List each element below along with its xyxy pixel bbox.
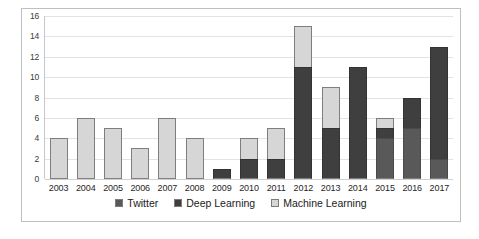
bar-group[interactable] bbox=[158, 118, 176, 179]
bar-segment[interactable] bbox=[376, 138, 394, 179]
bar-segment[interactable] bbox=[349, 67, 367, 179]
x-tick-label: 2005 bbox=[99, 181, 126, 195]
y-tick-label: 8 bbox=[34, 93, 39, 102]
y-tick-label: 14 bbox=[30, 32, 39, 41]
bar-group[interactable] bbox=[430, 47, 448, 179]
x-tick-label: 2010 bbox=[235, 181, 262, 195]
grid-line bbox=[45, 179, 453, 180]
legend-label: Deep Learning bbox=[186, 198, 255, 209]
y-tick-label: 12 bbox=[30, 53, 39, 62]
bar-segment[interactable] bbox=[294, 67, 312, 179]
bar-segment[interactable] bbox=[131, 148, 149, 179]
bar-segment[interactable] bbox=[50, 138, 68, 179]
bar-segment[interactable] bbox=[240, 159, 258, 179]
bar-group[interactable] bbox=[376, 118, 394, 179]
bar-segment[interactable] bbox=[322, 128, 340, 179]
bar-group[interactable] bbox=[77, 118, 95, 179]
plot-area bbox=[45, 16, 453, 179]
bar-group[interactable] bbox=[104, 128, 122, 179]
y-tick-label: 4 bbox=[34, 134, 39, 143]
bar-group[interactable] bbox=[267, 128, 285, 179]
bar-segment[interactable] bbox=[430, 159, 448, 179]
bar-segment[interactable] bbox=[294, 26, 312, 67]
legend-label: Twitter bbox=[127, 198, 158, 209]
bar-group[interactable] bbox=[186, 138, 204, 179]
legend-swatch-icon bbox=[271, 199, 279, 207]
legend-label: Machine Learning bbox=[283, 198, 366, 209]
bar-group[interactable] bbox=[213, 169, 231, 179]
x-tick-label: 2012 bbox=[290, 181, 317, 195]
y-tick-label: 6 bbox=[34, 114, 39, 123]
bar-group[interactable] bbox=[50, 138, 68, 179]
x-tick-label: 2011 bbox=[263, 181, 290, 195]
x-tick-label: 2008 bbox=[181, 181, 208, 195]
x-tick-label: 2007 bbox=[154, 181, 181, 195]
x-tick-label: 2006 bbox=[127, 181, 154, 195]
bar-segment[interactable] bbox=[376, 128, 394, 138]
y-tick-label: 2 bbox=[34, 154, 39, 163]
bar-segment[interactable] bbox=[186, 138, 204, 179]
bar-segment[interactable] bbox=[403, 128, 421, 179]
y-tick-label: 10 bbox=[30, 73, 39, 82]
x-tick-label: 2015 bbox=[371, 181, 398, 195]
bar-segment[interactable] bbox=[104, 128, 122, 179]
chart-container: 0246810121416 20032004200520062007200820… bbox=[0, 0, 479, 239]
x-tick-label: 2016 bbox=[399, 181, 426, 195]
y-tick-label: 0 bbox=[34, 175, 39, 184]
bar-segment[interactable] bbox=[322, 87, 340, 128]
bar-group[interactable] bbox=[349, 67, 367, 179]
x-axis-tick-labels: 2003200420052006200720082009201020112012… bbox=[45, 181, 453, 197]
bar-segment[interactable] bbox=[240, 138, 258, 158]
bar-segment[interactable] bbox=[403, 98, 421, 129]
bar-group[interactable] bbox=[240, 138, 258, 179]
bar-group[interactable] bbox=[322, 87, 340, 179]
x-tick-label: 2009 bbox=[208, 181, 235, 195]
bar-segment[interactable] bbox=[430, 47, 448, 159]
legend-swatch-icon bbox=[115, 199, 123, 207]
legend-swatch-icon bbox=[174, 199, 182, 207]
legend-item[interactable]: Machine Learning bbox=[271, 198, 366, 209]
chart-legend: TwitterDeep LearningMachine Learning bbox=[21, 198, 461, 209]
legend-item[interactable]: Deep Learning bbox=[174, 198, 255, 209]
bar-segment[interactable] bbox=[376, 118, 394, 128]
y-axis-tick-labels: 0246810121416 bbox=[21, 16, 42, 179]
bar-group[interactable] bbox=[131, 148, 149, 179]
bar-segment[interactable] bbox=[77, 118, 95, 179]
x-tick-label: 2004 bbox=[72, 181, 99, 195]
bar-segment[interactable] bbox=[267, 159, 285, 179]
bar-segment[interactable] bbox=[267, 128, 285, 159]
legend-item[interactable]: Twitter bbox=[115, 198, 158, 209]
y-tick-label: 16 bbox=[30, 12, 39, 21]
x-tick-label: 2014 bbox=[344, 181, 371, 195]
bar-segment[interactable] bbox=[158, 118, 176, 179]
bar-group[interactable] bbox=[403, 98, 421, 180]
bar-segment[interactable] bbox=[213, 169, 231, 179]
bar-series-area bbox=[45, 16, 453, 179]
bar-group[interactable] bbox=[294, 26, 312, 179]
x-tick-label: 2003 bbox=[45, 181, 72, 195]
x-tick-label: 2013 bbox=[317, 181, 344, 195]
x-tick-label: 2017 bbox=[426, 181, 453, 195]
